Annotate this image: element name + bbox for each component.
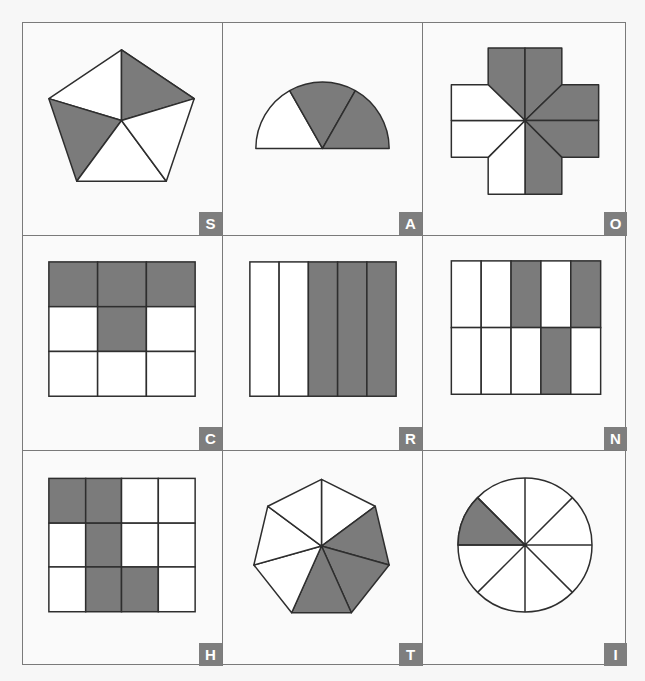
puzzle-cell-o: O — [423, 23, 627, 236]
puzzle-cell-i: I — [423, 451, 627, 666]
puzzle-grid: S A O — [22, 22, 626, 665]
label-badge: C — [199, 427, 222, 450]
label-badge: H — [199, 643, 222, 666]
label-badge: S — [199, 212, 222, 235]
heptagon-figure — [223, 451, 422, 666]
puzzle-cell-s: S — [23, 23, 223, 236]
puzzle-cell-r: R — [223, 236, 423, 451]
label-badge: A — [399, 212, 422, 235]
puzzle-cell-c: C — [23, 236, 223, 451]
label-badge: O — [604, 212, 627, 235]
label-badge: T — [399, 643, 422, 666]
cross-figure — [423, 23, 627, 235]
puzzle-cell-n: N — [423, 236, 627, 451]
puzzle-cell-t: T — [223, 451, 423, 666]
label-badge: N — [604, 427, 627, 450]
strips-figure — [223, 236, 422, 450]
label-badge: R — [399, 427, 422, 450]
circle-figure — [423, 451, 627, 666]
grid-3x3-figure — [23, 236, 222, 450]
pentagon-figure — [23, 23, 222, 235]
grid-2x5-figure — [423, 236, 627, 450]
puzzle-cell-h: H — [23, 451, 223, 666]
label-badge: I — [604, 643, 627, 666]
grid-3x4-figure — [23, 451, 222, 666]
semicircle-figure — [223, 23, 422, 235]
puzzle-cell-a: A — [223, 23, 423, 236]
